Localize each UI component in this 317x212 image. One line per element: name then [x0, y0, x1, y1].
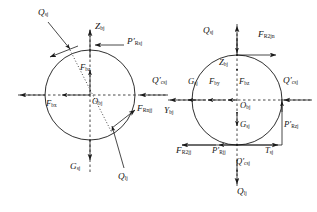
- left-leader-qsj: [48, 22, 70, 49]
- label-r-p-rjj: P′Rjj: [212, 146, 226, 155]
- label-r-g-sj2: Gsj: [240, 120, 250, 129]
- label-r-p-rzj: P′Rzj: [284, 120, 299, 129]
- label-o-bj: Obj: [92, 97, 102, 106]
- label-r-q-sj: Qsj: [203, 26, 213, 36]
- label-r-q-csj2: Q′csj: [236, 157, 250, 166]
- label-r-o-bj: Obj: [240, 101, 250, 110]
- label-p-rsj: P′Rsj: [127, 37, 142, 47]
- label-r-q-csj: Q′csj: [283, 76, 298, 86]
- label-f-bz: Fbz: [80, 63, 90, 72]
- label-r-f-by: Fby: [209, 77, 220, 86]
- label-r-z-bj: Zbj: [219, 58, 228, 67]
- label-r-f-r2jn: FR2jn: [258, 30, 275, 40]
- left-vector-qsj: [50, 46, 78, 57]
- label-z-bj: Zbj: [95, 22, 105, 32]
- left-chord-dotted: [70, 50, 112, 133]
- label-q-csj: Q′csj: [152, 76, 167, 86]
- label-r-f-r2jj: FR2jj: [176, 146, 191, 156]
- label-r-t-sj: Tsj: [265, 146, 273, 155]
- label-r-q-lj: Qlj: [237, 187, 247, 197]
- label-q-sj: Qsj: [38, 8, 48, 18]
- label-r-f-bz: Fbz: [239, 77, 249, 86]
- right-contact-ticks: [236, 55, 282, 172]
- label-q-lj: Qlj: [118, 172, 128, 182]
- label-f-rnjj: FRnjj: [137, 104, 152, 114]
- figure-canvas: Qsj Zbj P′Rsj Fbz Q′csj Fbx Obj FRnjj Gs…: [0, 0, 317, 212]
- label-r-y-bj: Ybj: [164, 106, 174, 116]
- label-r-g-sj: Gsj: [188, 77, 198, 86]
- label-g-sj: Gsj: [70, 162, 80, 172]
- label-f-bx: Fbx: [46, 99, 57, 108]
- left-leader-qlj: [112, 126, 124, 168]
